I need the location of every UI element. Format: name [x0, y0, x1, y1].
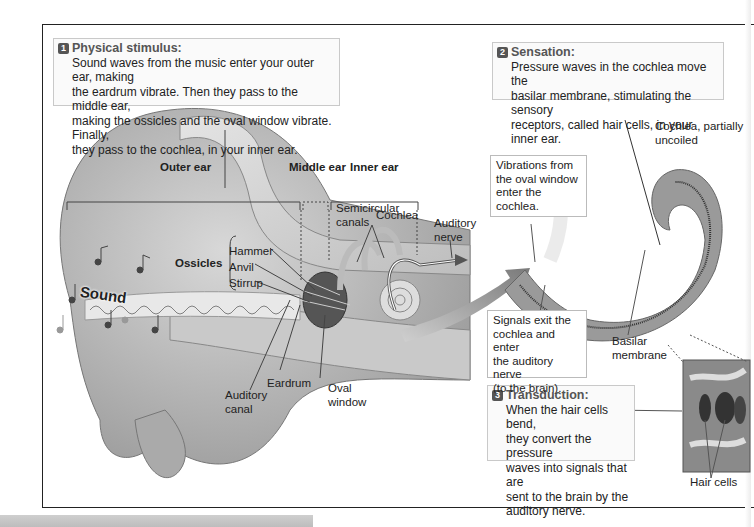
- cochlea-small: [380, 280, 420, 320]
- callout-line: the oval window: [496, 173, 581, 187]
- step-number-badge: 2: [497, 47, 508, 58]
- label-hammer: Hammer: [229, 245, 273, 259]
- callout-line: enter the cochlea.: [496, 186, 581, 213]
- step-1-physical-stimulus: 1Physical stimulus: Sound waves from the…: [53, 38, 340, 106]
- label-anvil: Anvil: [229, 261, 254, 275]
- label-cochlea: Cochlea: [376, 209, 418, 223]
- label-hair-cells: Hair cells: [690, 476, 737, 490]
- step-text-line: basilar membrane, stimulating the sensor…: [511, 89, 719, 118]
- step-text-line: When the hair cells bend,: [506, 403, 630, 432]
- step-title: Sensation:: [511, 45, 575, 60]
- label-basilar-membrane: Basilarmembrane: [612, 335, 667, 362]
- label-oval-window: Ovalwindow: [328, 382, 366, 409]
- step-text-line: sent to the brain by the: [506, 490, 630, 505]
- step-text-line: waves into signals that are: [506, 461, 630, 490]
- step-text-line: Sound waves from the music enter your ou…: [72, 56, 335, 85]
- label-stirrup: Stirrup: [229, 277, 263, 291]
- step-text-line: making the ossicles and the oval window …: [72, 114, 335, 143]
- label-inner-ear: Inner ear: [350, 161, 399, 175]
- callout-line: cochlea and enter: [493, 328, 581, 355]
- label-outer-ear: Outer ear: [160, 161, 211, 175]
- step-text-line: they convert the pressure: [506, 432, 630, 461]
- step-2-sensation: 2Sensation: Pressure waves in the cochle…: [492, 42, 724, 100]
- callout-line: Signals exit the: [493, 314, 581, 328]
- label-cochlea-uncoiled: Cochlea, partiallyuncoiled: [655, 120, 743, 147]
- step-3-transduction: 3Transduction: When the hair cells bend,…: [487, 385, 635, 461]
- callout-vibrations: Vibrations from the oval window enter th…: [490, 155, 587, 217]
- step-text-line: auditory nerve.: [506, 504, 630, 519]
- step-number-badge: 1: [58, 43, 69, 54]
- callout-line: (to the brain).: [493, 382, 581, 396]
- label-middle-ear: Middle ear: [289, 161, 346, 175]
- label-ossicles: Ossicles: [175, 257, 222, 271]
- label-auditory-nerve: Auditorynerve: [434, 217, 476, 244]
- step-text-line: they pass to the cochlea, in your inner …: [72, 143, 335, 158]
- step-text-line: the eardrum vibrate. Then they pass to t…: [72, 85, 335, 114]
- callout-signals: Signals exit the cochlea and enter the a…: [487, 310, 587, 378]
- label-auditory-canal: Auditorycanal: [225, 389, 267, 416]
- callout-line: Vibrations from: [496, 159, 581, 173]
- label-eardrum: Eardrum: [267, 377, 311, 391]
- step-title: Physical stimulus:: [72, 41, 182, 56]
- callout-line: the auditory nerve: [493, 355, 581, 382]
- step-text-line: Pressure waves in the cochlea move the: [511, 60, 719, 89]
